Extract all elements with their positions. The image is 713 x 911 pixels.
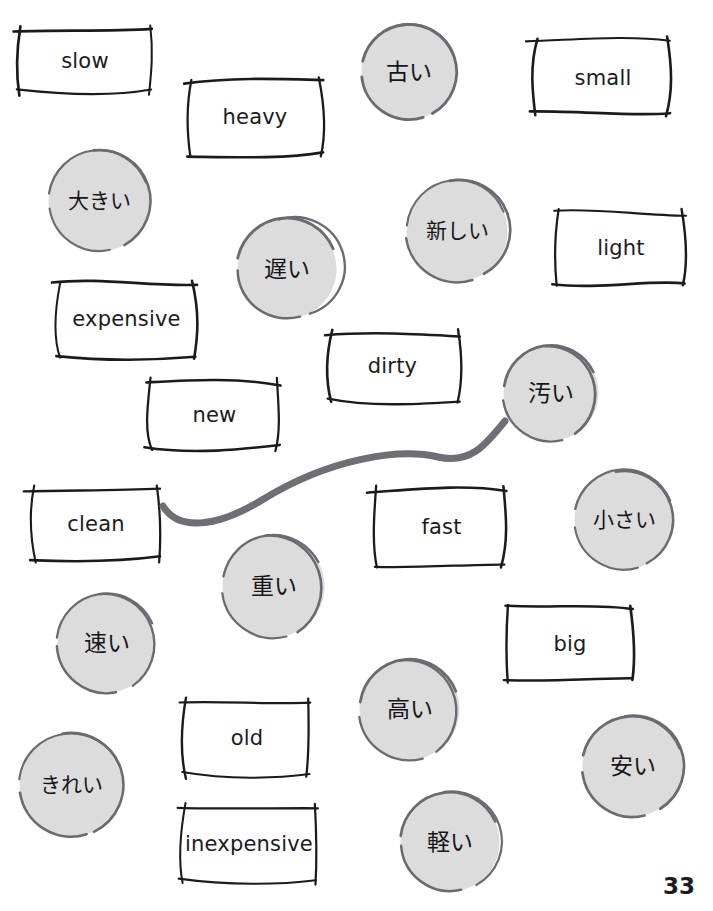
japanese-chip-label: 古い bbox=[386, 60, 432, 84]
adjective-card-label: expensive bbox=[72, 308, 180, 330]
adjective-card-dirty[interactable]: dirty bbox=[326, 330, 459, 402]
adjective-card-label: heavy bbox=[223, 106, 288, 128]
japanese-chip-hayai[interactable]: 速い bbox=[55, 592, 158, 695]
adjective-card-label: light bbox=[597, 237, 645, 259]
japanese-chip-label: 新しい bbox=[426, 220, 489, 242]
japanese-chip-label: きれい bbox=[40, 774, 103, 796]
adjective-card-label: old bbox=[231, 727, 264, 749]
adjective-card-new[interactable]: new bbox=[148, 379, 281, 452]
adjective-card-old[interactable]: old bbox=[183, 699, 311, 778]
japanese-chip-furui[interactable]: 古い bbox=[359, 22, 459, 122]
japanese-chip-label: 速い bbox=[84, 631, 130, 655]
worksheet-page: slowheavysmalllightexpensivedirtynewclea… bbox=[0, 0, 713, 911]
adjective-card-label: small bbox=[575, 67, 632, 89]
japanese-chip-karui[interactable]: 軽い bbox=[398, 790, 502, 894]
japanese-chip-kitanai[interactable]: 汚い bbox=[501, 343, 601, 443]
shapes-layer: slowheavysmalllightexpensivedirtynewclea… bbox=[0, 0, 713, 911]
japanese-chip-label: 高い bbox=[387, 697, 433, 721]
page-number: 33 bbox=[663, 873, 695, 899]
japanese-chip-label: 小さい bbox=[593, 509, 656, 531]
adjective-card-small[interactable]: small bbox=[534, 40, 672, 117]
adjective-card-heavy[interactable]: heavy bbox=[188, 78, 322, 156]
adjective-card-big[interactable]: big bbox=[505, 606, 635, 682]
adjective-card-fast[interactable]: fast bbox=[376, 488, 507, 567]
japanese-chip-omoi[interactable]: 重い bbox=[220, 533, 327, 640]
adjective-card-clean[interactable]: clean bbox=[33, 487, 159, 561]
japanese-chip-kirei[interactable]: きれい bbox=[17, 731, 125, 839]
japanese-chip-label: 遅い bbox=[264, 257, 310, 281]
japanese-chip-yasui[interactable]: 安い bbox=[580, 714, 685, 819]
adjective-card-light[interactable]: light bbox=[556, 208, 686, 288]
japanese-chip-takai[interactable]: 高い bbox=[357, 657, 462, 762]
adjective-card-label: clean bbox=[67, 513, 124, 535]
japanese-chip-label: 重い bbox=[251, 574, 297, 598]
japanese-chip-label: 大きい bbox=[68, 190, 131, 212]
japanese-chip-chiisai[interactable]: 小さい bbox=[572, 468, 676, 572]
adjective-card-expensive[interactable]: expensive bbox=[58, 280, 195, 358]
adjective-card-inexpensive[interactable]: inexpensive bbox=[180, 805, 318, 884]
japanese-chip-label: 軽い bbox=[427, 830, 473, 854]
japanese-chip-label: 安い bbox=[610, 754, 656, 778]
adjective-card-label: dirty bbox=[368, 355, 417, 377]
adjective-card-slow[interactable]: slow bbox=[18, 26, 152, 96]
japanese-chip-osoi[interactable]: 遅い bbox=[235, 217, 339, 321]
adjective-card-label: slow bbox=[61, 50, 109, 72]
adjective-card-label: big bbox=[553, 633, 586, 655]
japanese-chip-atarashii[interactable]: 新しい bbox=[404, 178, 510, 284]
adjective-card-label: inexpensive bbox=[185, 833, 313, 855]
adjective-card-label: fast bbox=[421, 516, 461, 538]
adjective-card-label: new bbox=[192, 404, 236, 426]
japanese-chip-ookii[interactable]: 大きい bbox=[46, 148, 152, 254]
japanese-chip-label: 汚い bbox=[528, 381, 574, 405]
